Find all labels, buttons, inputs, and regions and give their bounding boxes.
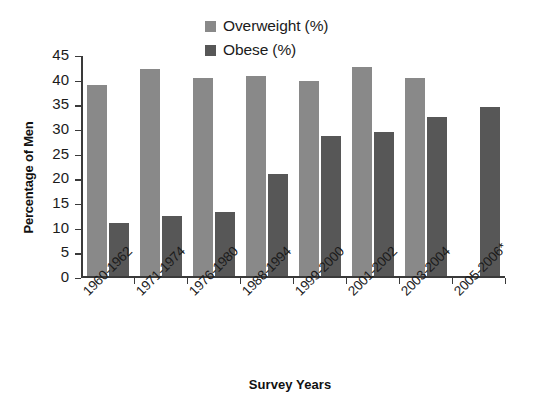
y-tick-mark xyxy=(75,81,81,82)
y-tick-mark xyxy=(75,130,81,131)
y-tick-label: 20 xyxy=(29,169,69,186)
bar xyxy=(405,78,425,277)
x-tick-mark xyxy=(452,278,453,284)
y-tick-mark xyxy=(75,155,81,156)
legend-label: Overweight (%) xyxy=(223,17,328,35)
bar xyxy=(246,76,266,276)
legend-entry: Overweight (%) xyxy=(205,16,328,36)
y-tick-label: 10 xyxy=(29,219,69,236)
y-tick-label: 0 xyxy=(29,268,69,285)
bar xyxy=(140,69,160,276)
x-tick-mark xyxy=(293,278,294,284)
bar xyxy=(299,81,319,277)
x-tick-mark xyxy=(505,278,506,284)
y-tick-label: 25 xyxy=(29,145,69,162)
legend-swatch-icon xyxy=(205,21,216,32)
bar xyxy=(193,78,213,276)
y-tick-mark xyxy=(75,229,81,230)
bar xyxy=(352,67,372,276)
y-tick-label: 40 xyxy=(29,71,69,88)
x-tick-mark xyxy=(187,278,188,284)
x-axis-title: Survey Years xyxy=(0,377,536,392)
x-tick-mark xyxy=(399,278,400,284)
x-tick-mark xyxy=(346,278,347,284)
y-tick-label: 5 xyxy=(29,243,69,260)
y-tick-label: 45 xyxy=(29,46,69,63)
y-tick-mark xyxy=(75,179,81,180)
chart-legend: Overweight (%)Obese (%) xyxy=(205,16,328,60)
bar xyxy=(87,85,107,277)
legend-swatch-icon xyxy=(205,45,216,56)
y-tick-label: 35 xyxy=(29,95,69,112)
y-tick-mark xyxy=(75,278,81,279)
y-tick-mark xyxy=(75,56,81,57)
y-tick-mark xyxy=(75,204,81,205)
y-tick-label: 15 xyxy=(29,194,69,211)
x-tick-mark xyxy=(134,278,135,284)
y-tick-mark xyxy=(75,105,81,106)
bar-chart: Overweight (%)Obese (%) Percentage of Me… xyxy=(0,0,536,418)
y-tick-mark xyxy=(75,253,81,254)
y-tick-label: 30 xyxy=(29,120,69,137)
x-tick-mark xyxy=(240,278,241,284)
y-axis-line xyxy=(81,56,83,278)
